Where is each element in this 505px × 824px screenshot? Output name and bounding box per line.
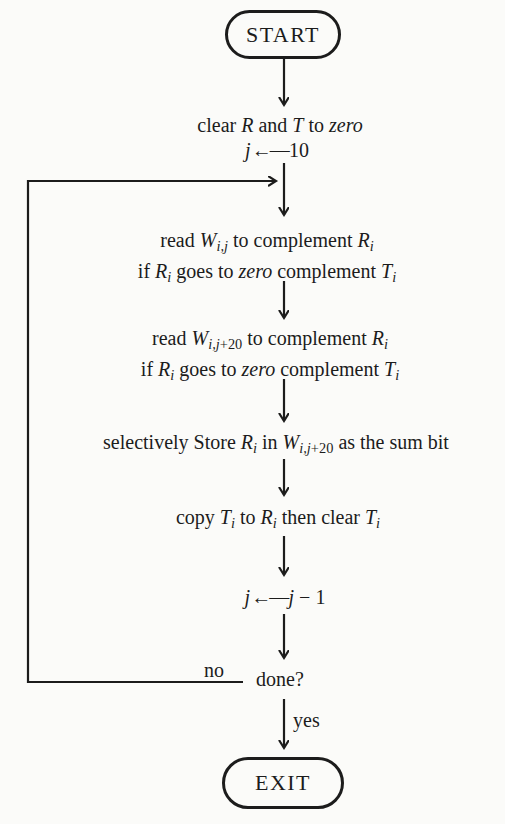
step-read2-line1: read Wi,j+20 to complement Ri [141,326,399,357]
step-store-line: selectively Store Ri in Wi,j+20 as the s… [103,430,449,461]
start-node: START [225,10,341,59]
flowchart-page: START clear R and T to zero j←—10 read W… [0,0,505,824]
branch-label-no: no [204,659,224,681]
step-setj-line: j←—10 [245,138,309,163]
step-read1-line2: if Ri goes to zero complement Ti [138,259,396,290]
step-read-wij20: read Wi,j+20 to complement Ri if Ri goes… [141,326,399,388]
decision-done: done? [256,667,304,692]
step-copy-t-to-r: copy Ti to Ri then clear Ti [176,505,380,536]
step-read1-line1: read Wi,j to complement Ri [138,228,396,259]
step-read2-line2: if Ri goes to zero complement Ti [141,357,399,388]
step-clear-registers: clear R and T to zero [197,113,362,138]
decision-done-label: done? [256,667,304,692]
exit-label: EXIT [255,770,311,796]
step-decrement-j: j←—j − 1 [245,585,326,610]
step-store-sum: selectively Store Ri in Wi,j+20 as the s… [103,430,449,461]
branch-label-yes: yes [293,709,320,731]
start-label: START [246,22,320,48]
step-decj-line: j←—j − 1 [245,585,326,610]
step-clear-line: clear R and T to zero [197,113,362,138]
step-set-j: j←—10 [245,138,309,163]
exit-node: EXIT [222,757,344,809]
step-copy-line: copy Ti to Ri then clear Ti [176,505,380,536]
step-read-wij: read Wi,j to complement Ri if Ri goes to… [138,228,396,290]
